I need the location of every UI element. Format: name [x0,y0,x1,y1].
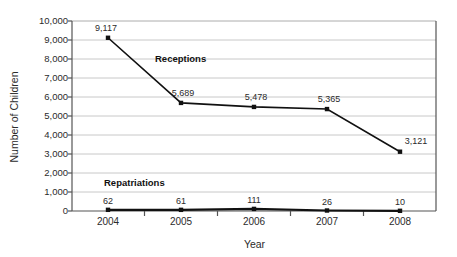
line-chart: Number of Children 10,000 9,000 8,000 7,… [0,0,457,257]
data-point-label: 61 [176,196,186,206]
data-point-marker [252,207,256,211]
data-point-marker [325,107,329,111]
series-label-receptions: Receptions [155,53,206,64]
x-tick-label: 2007 [297,216,357,227]
data-point-label: 62 [103,196,113,206]
data-point-marker [106,36,110,40]
data-point-label: 10 [395,197,405,207]
data-point-label: 3,121 [405,136,428,146]
x-tick-label: 2005 [151,216,211,227]
data-point-marker [252,105,256,109]
x-tick-label: 2008 [370,216,430,227]
data-point-label: 5,689 [172,88,195,98]
data-point-label: 111 [247,195,261,205]
data-point-marker [325,208,329,212]
data-point-marker [398,150,402,154]
data-point-label: 5,365 [318,94,341,104]
x-tick-label: 2004 [78,216,138,227]
data-point-marker [179,208,183,212]
data-point-label: 26 [322,197,332,207]
data-point-marker [398,209,402,213]
data-point-label: 9,117 [95,23,117,33]
x-tick-label: 2006 [224,216,284,227]
data-point-label: 5,478 [245,92,268,102]
data-point-marker [106,208,110,212]
data-point-marker [179,101,183,105]
x-axis-title: Year [72,238,437,250]
series-label-repatriations: Repatriations [104,177,165,188]
